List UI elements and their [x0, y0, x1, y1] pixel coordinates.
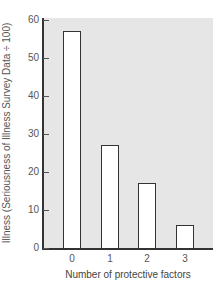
bar-3	[176, 225, 194, 248]
x-tick-label-2: 2	[138, 254, 156, 264]
x-tick-label-0: 0	[63, 254, 81, 264]
x-tick-label-1: 1	[101, 254, 119, 264]
y-tick-40	[43, 96, 49, 97]
y-tick-label-50: 50	[19, 53, 39, 63]
x-tick-label-3: 3	[176, 254, 194, 264]
x-axis-line	[42, 248, 213, 250]
y-tick-50	[43, 58, 49, 59]
y-tick-10	[43, 210, 49, 211]
y-tick-label-10: 10	[19, 205, 39, 215]
y-tick-0	[43, 248, 49, 249]
y-tick-label-30: 30	[19, 129, 39, 139]
y-tick-60	[43, 20, 49, 21]
y-tick-label-20: 20	[19, 167, 39, 177]
bar-2	[138, 183, 156, 248]
y-tick-label-60: 60	[19, 15, 39, 25]
bar-1	[101, 145, 119, 248]
y-tick-20	[43, 172, 49, 173]
bar-0	[63, 31, 81, 248]
y-tick-label-40: 40	[19, 91, 39, 101]
y-tick-label-0: 0	[19, 243, 39, 253]
y-tick-30	[43, 134, 49, 135]
y-axis-label: Illness (Seriousness of Illness Survey D…	[2, 13, 12, 253]
x-axis-label: Number of protective factors	[43, 270, 213, 280]
